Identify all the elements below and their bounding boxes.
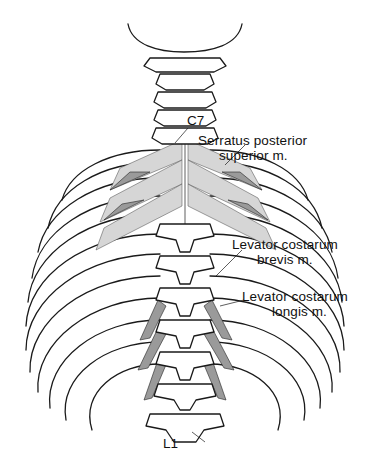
label-levator-costarum-longis: Levator costarum longis m.	[242, 289, 348, 319]
anatomy-illustration	[0, 0, 370, 462]
skull-base	[128, 24, 242, 52]
label-serratus-posterior-superior: Serratus posterior superior m.	[198, 133, 307, 163]
label-c7: C7	[187, 113, 204, 128]
label-l1: L1	[163, 436, 178, 451]
leader-lev-longis	[220, 300, 244, 306]
label-levator-costarum-brevis: Levator costarum brevis m.	[232, 237, 338, 267]
